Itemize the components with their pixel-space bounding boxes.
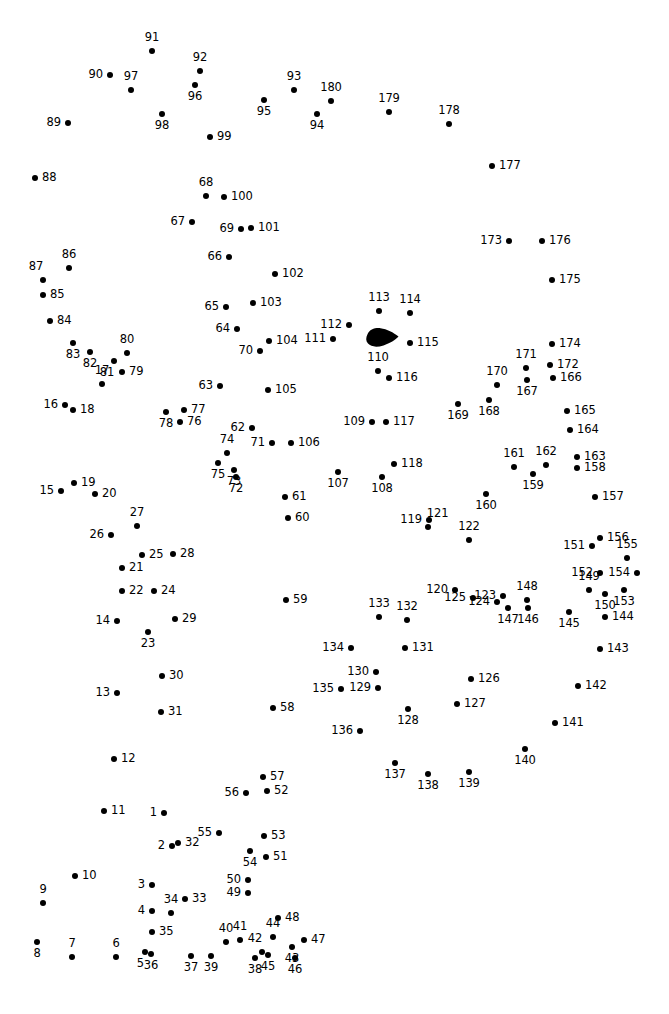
dot-number-label: 169 [447, 410, 469, 422]
puzzle-dot [243, 790, 249, 796]
dot-number-label: 80 [120, 334, 134, 346]
dot-number-label: 136 [331, 725, 353, 737]
puzzle-dot [101, 808, 107, 814]
dot-number-label: 63 [199, 380, 213, 392]
puzzle-dot [524, 597, 530, 603]
dot-number-label: 59 [293, 594, 307, 606]
puzzle-dot [338, 686, 344, 692]
dot-number-label: 131 [412, 642, 434, 654]
dot-number-label: 127 [464, 698, 486, 710]
puzzle-dot [386, 109, 392, 115]
puzzle-dot [182, 896, 188, 902]
dot-number-label: 163 [584, 451, 606, 463]
puzzle-dot [224, 450, 230, 456]
dot-number-label: 119 [400, 514, 422, 526]
puzzle-dot [161, 810, 167, 816]
dot-number-label: 37 [184, 962, 198, 974]
dot-number-label: 146 [517, 614, 539, 626]
dot-number-label: 144 [612, 611, 634, 623]
dot-number-label: 22 [129, 585, 143, 597]
puzzle-dot [375, 685, 381, 691]
dot-number-label: 45 [261, 961, 275, 973]
puzzle-dot [407, 310, 413, 316]
puzzle-dot [523, 365, 529, 371]
puzzle-dot [269, 440, 275, 446]
puzzle-dot [108, 532, 114, 538]
dot-number-label: 179 [378, 93, 400, 105]
dot-number-label: 128 [397, 715, 419, 727]
puzzle-dot [207, 134, 213, 140]
dot-number-label: 96 [188, 91, 202, 103]
dot-number-label: 147 [497, 614, 519, 626]
dot-number-label: 107 [327, 478, 349, 490]
dot-number-label: 180 [320, 82, 342, 94]
dot-number-label: 114 [399, 294, 421, 306]
dot-number-label: 134 [322, 642, 344, 654]
dot-number-label: 139 [458, 778, 480, 790]
dot-number-label: 89 [47, 117, 61, 129]
puzzle-dot [634, 570, 640, 576]
dot-number-label: 97 [124, 71, 138, 83]
puzzle-dot [170, 551, 176, 557]
puzzle-dot [34, 939, 40, 945]
dot-number-label: 103 [260, 297, 282, 309]
puzzle-dot [159, 673, 165, 679]
dot-number-label: 172 [557, 359, 579, 371]
puzzle-dot [530, 471, 536, 477]
puzzle-dot [348, 645, 354, 651]
puzzle-dot [466, 769, 472, 775]
dot-number-label: 112 [320, 319, 342, 331]
puzzle-dot [335, 469, 341, 475]
dot-number-label: 143 [607, 643, 629, 655]
dot-number-label: 51 [273, 851, 287, 863]
dot-number-label: 58 [280, 702, 294, 714]
dot-number-label: 141 [562, 717, 584, 729]
dot-number-label: 9 [39, 884, 46, 896]
puzzle-dot [407, 340, 413, 346]
dot-number-label: 56 [225, 787, 239, 799]
puzzle-dot [494, 382, 500, 388]
puzzle-dot [589, 543, 595, 549]
dot-number-label: 94 [310, 120, 324, 132]
puzzle-dot [249, 425, 255, 431]
dot-number-label: 174 [559, 338, 581, 350]
puzzle-dot [223, 939, 229, 945]
dot-number-label: 135 [312, 683, 334, 695]
puzzle-dot [566, 609, 572, 615]
puzzle-dot [158, 709, 164, 715]
dot-number-label: 28 [180, 548, 194, 560]
dot-number-label: 117 [393, 416, 415, 428]
dot-number-label: 55 [198, 827, 212, 839]
puzzle-dot [119, 565, 125, 571]
puzzle-dot [524, 377, 530, 383]
puzzle-dot [525, 605, 531, 611]
dot-number-label: 148 [516, 581, 538, 593]
puzzle-dot [543, 462, 549, 468]
puzzle-dot [291, 87, 297, 93]
dot-number-label: 13 [96, 687, 110, 699]
puzzle-dot [149, 882, 155, 888]
dot-number-label: 151 [563, 540, 585, 552]
dot-number-label: 66 [208, 251, 222, 263]
dot-number-label: 138 [417, 780, 439, 792]
puzzle-dot [266, 338, 272, 344]
dot-number-label: 40 [219, 923, 233, 935]
puzzle-dot [564, 408, 570, 414]
puzzle-dot [489, 163, 495, 169]
puzzle-dot [511, 464, 517, 470]
puzzle-dot [346, 322, 352, 328]
puzzle-dot [237, 937, 243, 943]
puzzle-dot [252, 955, 258, 961]
dot-number-label: 166 [560, 372, 582, 384]
dot-number-label: 83 [66, 349, 80, 361]
dot-number-label: 27 [130, 507, 144, 519]
dot-number-label: 177 [499, 160, 521, 172]
dot-number-label: 65 [205, 301, 219, 313]
puzzle-dot [314, 111, 320, 117]
dot-number-label: 47 [311, 934, 325, 946]
puzzle-dot [248, 225, 254, 231]
dot-number-label: 88 [42, 172, 56, 184]
dot-number-label: 48 [285, 912, 299, 924]
dot-number-label: 25 [149, 549, 163, 561]
dot-number-label: 67 [171, 216, 185, 228]
